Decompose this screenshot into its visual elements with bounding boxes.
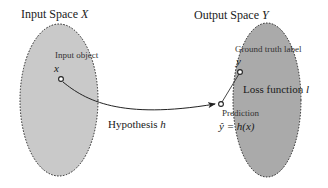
loss-function-label: Loss function l (243, 84, 309, 95)
input-space-title: Input Space X (21, 8, 88, 20)
input-object-label: Input object (55, 51, 98, 60)
input-space-ellipse (20, 24, 98, 176)
output-space-title: Output Space Y (194, 9, 269, 21)
ground-truth-point (238, 70, 243, 75)
hypothesis-label: Hypothesis h (108, 119, 166, 130)
truth-symbol-y: y (236, 56, 241, 67)
prediction-formula: ŷ = h(x) (219, 121, 255, 132)
input-point (59, 77, 64, 82)
ground-truth-label: Ground truth label (235, 45, 302, 54)
prediction-label: Prediction (222, 109, 259, 118)
prediction-point (219, 102, 224, 107)
input-symbol-x: x (54, 63, 59, 74)
